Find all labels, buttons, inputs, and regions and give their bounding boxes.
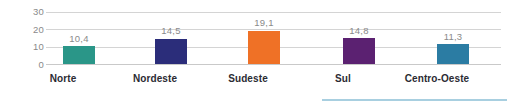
y-axis-tick-20: 20	[4, 25, 44, 35]
bar-value-nordeste: 14,5	[141, 26, 201, 36]
y-axis: 30 20 10 0	[0, 0, 44, 64]
bar-chart: 30 20 10 0 10,4 14,5 19,1 14,8	[0, 0, 507, 104]
y-axis-tick-0: 0	[4, 60, 44, 70]
bar-sul[interactable]	[343, 38, 375, 64]
bar-norte[interactable]	[63, 46, 95, 64]
x-axis-label-sudeste: Sudeste	[193, 74, 303, 84]
y-axis-tick-30: 30	[4, 7, 44, 17]
bar-value-centro-oeste: 11,3	[423, 32, 483, 42]
bar-centro-oeste[interactable]	[437, 44, 469, 64]
x-axis-label-centro-oeste: Centro-Oeste	[382, 74, 492, 84]
bar-group-sul[interactable]: 14,8	[343, 0, 375, 64]
bar-nordeste[interactable]	[155, 39, 187, 64]
accent-rule	[322, 99, 507, 101]
y-axis-tick-10: 10	[4, 42, 44, 52]
bar-group-nordeste[interactable]: 14,5	[155, 0, 187, 64]
bar-value-norte: 10,4	[49, 34, 109, 44]
bar-sudeste[interactable]	[248, 31, 280, 64]
bar-group-sudeste[interactable]: 19,1	[248, 0, 280, 64]
bar-value-sudeste: 19,1	[234, 18, 294, 28]
bar-group-centro-oeste[interactable]: 11,3	[437, 0, 469, 64]
bar-group-norte[interactable]: 10,4	[63, 0, 95, 64]
plot-area: 10,4 14,5 19,1 14,8 11,3	[46, 0, 501, 64]
bar-value-sul: 14,8	[329, 26, 389, 36]
